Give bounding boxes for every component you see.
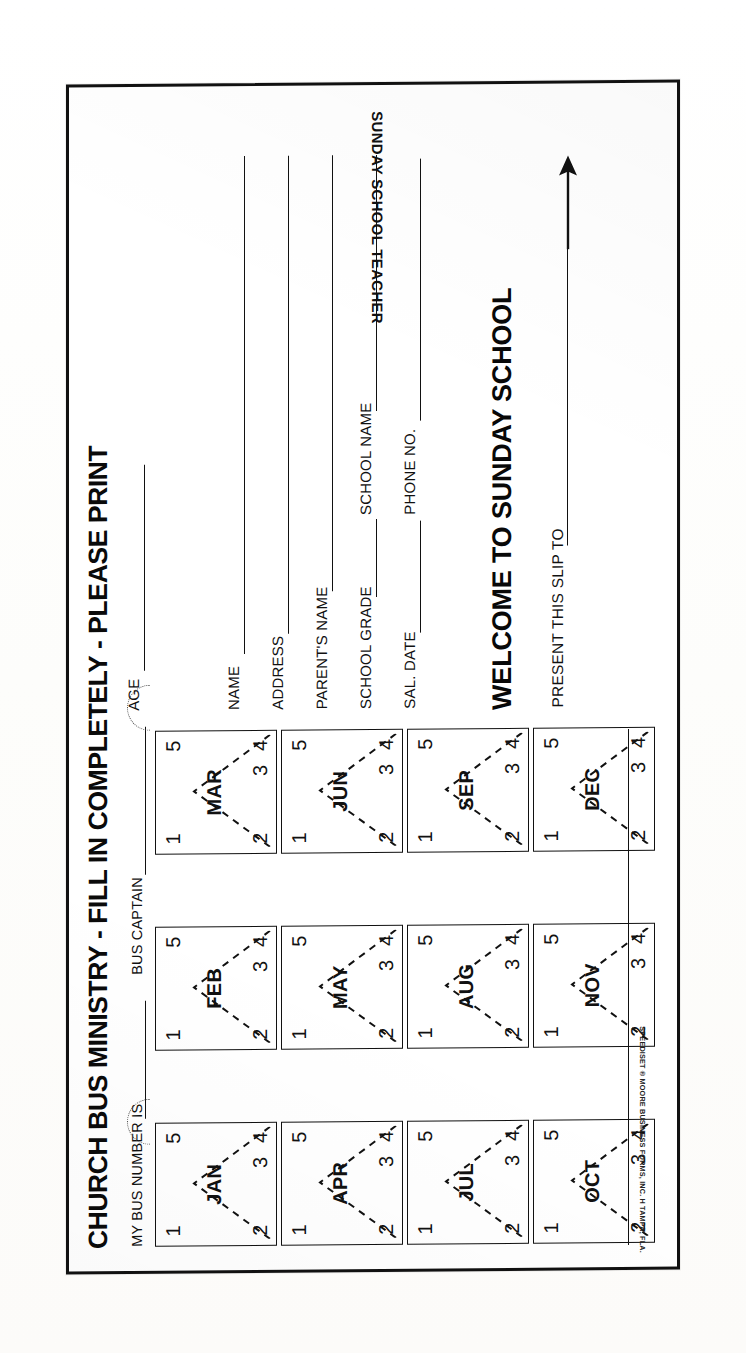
week-number-2[interactable]: 2 [501,830,524,841]
week-number-2[interactable]: 2 [375,1027,398,1038]
field-line-age[interactable] [144,464,145,670]
week-number-4[interactable]: 4 [501,737,524,748]
attendance-row: 1 2 3 4 5 JAN 1 2 3 4 5 [155,729,279,1246]
week-number-3[interactable]: 3 [375,959,398,970]
week-number-2[interactable]: 2 [249,1224,272,1235]
week-number-4[interactable]: 4 [501,933,524,944]
month-cell-dec[interactable]: 1 2 3 4 5 DEC [533,726,655,851]
chevron-icon [186,734,272,847]
week-number-3[interactable]: 3 [501,1154,524,1165]
month-cell-oct[interactable]: 1 2 3 4 5 OCT [533,1118,655,1243]
week-number-3[interactable]: 3 [501,958,524,969]
week-number-5[interactable]: 5 [162,740,185,751]
month-cell-jun[interactable]: 1 2 3 4 5 JUN [281,728,403,853]
week-number-5[interactable]: 5 [162,936,185,947]
week-number-2[interactable]: 2 [249,832,272,843]
chevron-icon [312,733,398,846]
chevron-icon [312,929,398,1042]
week-number-3[interactable]: 3 [501,762,524,773]
field-label-sal-date: SAL. DATE [401,631,418,709]
week-number-4[interactable]: 4 [501,1129,524,1140]
week-number-2[interactable]: 2 [501,1222,524,1233]
week-number-1[interactable]: 1 [162,833,185,844]
week-number-1[interactable]: 1 [288,1224,311,1235]
field-label-phone-no: PHONE NO. [401,428,418,514]
week-number-3[interactable]: 3 [627,957,650,968]
week-number-4[interactable]: 4 [249,1131,272,1142]
week-number-4[interactable]: 4 [249,935,272,946]
bus-captain-line[interactable] [145,726,146,874]
week-number-1[interactable]: 1 [414,1223,437,1234]
week-number-3[interactable]: 3 [375,763,398,774]
field-parents-name[interactable]: PARENT'S NAME [313,149,335,709]
week-number-3[interactable]: 3 [249,960,272,971]
month-label: SEP [455,729,478,851]
week-number-4[interactable]: 4 [249,739,272,750]
week-number-2[interactable]: 2 [375,1223,398,1234]
chevron-icon [438,928,524,1041]
week-number-1[interactable]: 1 [162,1029,185,1040]
week-number-4[interactable]: 4 [375,738,398,749]
month-label: MAY [329,926,352,1048]
month-cell-jan[interactable]: 1 2 3 4 5 JAN [155,1121,277,1246]
month-cell-jul[interactable]: 1 2 3 4 5 JUL [407,1119,529,1244]
attendance-row: 1 2 3 4 5 APR 1 2 3 4 5 [281,728,405,1245]
week-number-2[interactable]: 2 [627,829,650,840]
field-label-school-grade: SCHOOL GRADE [357,586,374,709]
field-line-name[interactable] [244,156,245,654]
week-number-4[interactable]: 4 [627,932,650,943]
field-line-phone-no[interactable] [420,158,421,420]
field-name[interactable]: NAME [225,149,247,709]
week-number-2[interactable]: 2 [501,1026,524,1037]
attendance-grid: 1 2 3 4 5 JAN 1 2 3 4 5 [155,726,655,1246]
month-cell-may[interactable]: 1 2 3 4 5 MAY [281,924,403,1049]
month-cell-nov[interactable]: 1 2 3 4 5 NOV [533,922,655,1047]
field-line-school-grade[interactable] [376,518,377,596]
week-number-1[interactable]: 1 [414,831,437,842]
week-number-3[interactable]: 3 [375,1155,398,1166]
week-number-3[interactable]: 3 [249,764,272,775]
week-number-2[interactable]: 2 [249,1028,272,1039]
present-slip-label: PRESENT THIS SLIP TO [549,528,567,707]
field-line-parents-name[interactable] [332,155,333,591]
week-number-1[interactable]: 1 [414,1027,437,1038]
field-age[interactable]: AGE [125,460,147,710]
month-cell-feb[interactable]: 1 2 3 4 5 FEB [155,925,277,1050]
week-number-1[interactable]: 1 [162,1225,185,1236]
week-number-3[interactable]: 3 [627,761,650,772]
field-phone-no[interactable]: PHONE NO. [401,148,423,514]
welcome-heading: WELCOME TO SUNDAY SCHOOL [487,287,518,709]
field-address[interactable]: ADDRESS [269,149,291,709]
week-number-4[interactable]: 4 [375,1130,398,1141]
week-number-5[interactable]: 5 [288,1131,311,1142]
week-number-4[interactable]: 4 [375,934,398,945]
week-number-5[interactable]: 5 [414,738,437,749]
week-number-5[interactable]: 5 [540,737,563,748]
field-label-school-name: SCHOOL NAME [357,402,374,515]
week-number-2[interactable]: 2 [375,831,398,842]
week-number-1[interactable]: 1 [540,1026,563,1037]
rotated-form-container: CHURCH BUS MINISTRY - FILL IN COMPLETELY… [66,79,680,1274]
field-line-sal-date[interactable] [420,520,421,632]
present-slip-line[interactable] [567,247,568,545]
week-number-1[interactable]: 1 [540,830,563,841]
week-number-5[interactable]: 5 [288,739,311,750]
week-number-1[interactable]: 1 [288,832,311,843]
field-label-name: NAME [225,665,242,709]
week-number-5[interactable]: 5 [414,1130,437,1141]
month-label: FEB [203,927,226,1049]
week-number-5[interactable]: 5 [540,1129,563,1140]
week-number-5[interactable]: 5 [414,934,437,945]
week-number-1[interactable]: 1 [540,1222,563,1233]
week-number-5[interactable]: 5 [162,1132,185,1143]
week-number-5[interactable]: 5 [540,933,563,944]
week-number-4[interactable]: 4 [627,736,650,747]
month-cell-sep[interactable]: 1 2 3 4 5 SEP [407,727,529,852]
month-cell-apr[interactable]: 1 2 3 4 5 APR [281,1120,403,1245]
week-number-1[interactable]: 1 [288,1028,311,1039]
week-number-5[interactable]: 5 [288,935,311,946]
month-cell-aug[interactable]: 1 2 3 4 5 AUG [407,923,529,1048]
week-number-3[interactable]: 3 [249,1156,272,1167]
month-cell-mar[interactable]: 1 2 3 4 5 MAR [155,729,277,854]
field-line-address[interactable] [288,155,289,633]
